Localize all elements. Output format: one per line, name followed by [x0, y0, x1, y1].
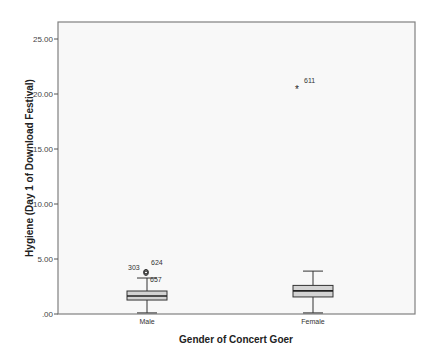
x-tick-label: Female	[301, 318, 324, 325]
y-tick-label: .00	[42, 310, 54, 319]
outlier-star: *	[295, 84, 299, 95]
outlier-label: 624	[151, 259, 163, 266]
plot-area	[58, 22, 415, 314]
y-tick-label: 5.00	[37, 255, 53, 264]
y-tick-label: 15.00	[33, 145, 54, 154]
y-tick-label: 20.00	[33, 90, 54, 99]
boxplot-chart: .005.0010.0015.0020.0025.00Hygiene (Day …	[0, 0, 441, 354]
outlier-label: 303	[128, 264, 140, 271]
outlier-label: 611	[304, 77, 315, 84]
y-tick-label: 25.00	[33, 35, 54, 44]
chart-svg: .005.0010.0015.0020.0025.00Hygiene (Day …	[0, 0, 441, 354]
outlier-label: 657	[150, 276, 162, 283]
y-tick-label: 10.00	[33, 200, 54, 209]
y-axis-label: Hygiene (Day 1 of Download Festival)	[24, 79, 35, 257]
x-axis-label: Gender of Concert Goer	[179, 334, 293, 345]
x-tick-label: Male	[139, 318, 154, 325]
